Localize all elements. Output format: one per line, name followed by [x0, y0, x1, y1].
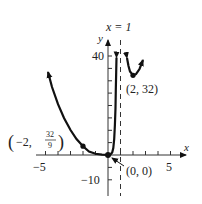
- point-origin-label: (0, 0): [126, 164, 152, 178]
- point-left-num: 32: [46, 130, 54, 139]
- origin-pointer: [112, 158, 124, 166]
- x-tick-neg5: −5: [33, 160, 46, 174]
- x-tick-5: 5: [166, 160, 172, 174]
- x-axis-label: x: [183, 141, 189, 153]
- paren-open: (: [8, 132, 14, 153]
- curve-right-branch: [127, 58, 143, 75]
- point-left-x: −2,: [16, 135, 32, 149]
- point-left-label: ( −2, 32 9 ): [8, 130, 64, 153]
- point-origin: [105, 152, 111, 158]
- graph: x = 1 y x 40 −10 −5 5 (2, 32) (0, 0) ( −…: [0, 0, 202, 204]
- point-left: [80, 144, 85, 149]
- point-left-den: 9: [48, 141, 52, 150]
- point-min-label: (2, 32): [126, 82, 158, 96]
- y-tick-neg10: −10: [81, 173, 100, 187]
- y-axis: [108, 40, 112, 196]
- point-min: [130, 73, 135, 78]
- y-axis-label: y: [97, 32, 103, 44]
- paren-close: ): [58, 132, 64, 153]
- asymptote-label: x = 1: [105, 20, 131, 34]
- y-tick-40: 40: [92, 49, 104, 63]
